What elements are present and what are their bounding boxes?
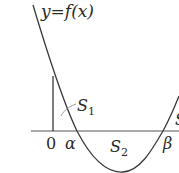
function-area-diagram: y=f(x) S1 0 α S2 β S — [0, 0, 179, 173]
beta-label: β — [163, 136, 172, 152]
alpha-label: α — [65, 136, 76, 152]
s2-main: S — [110, 137, 121, 156]
diagram-canvas — [0, 0, 179, 173]
region-label-s1: S1 — [77, 98, 95, 114]
region-label-s2: S2 — [110, 139, 128, 155]
s1-subscript: 1 — [88, 105, 95, 118]
origin-label: 0 — [46, 136, 56, 152]
s1-main: S — [77, 96, 88, 115]
region-label-s3-partial: S — [175, 112, 179, 128]
function-label: y=f(x) — [41, 3, 94, 20]
s2-subscript: 2 — [121, 146, 128, 159]
